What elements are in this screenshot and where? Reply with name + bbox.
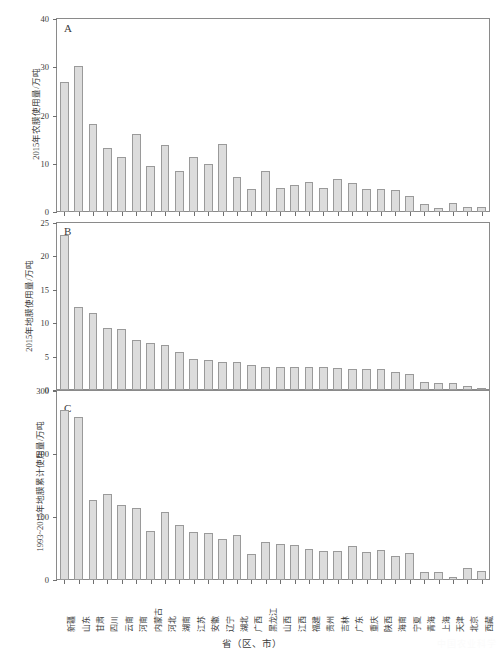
y-tick-mark xyxy=(53,116,57,117)
x-tick-label: 广西 xyxy=(255,616,263,632)
x-tick-label: 青海 xyxy=(428,616,436,632)
x-tick-label: 云南 xyxy=(126,616,134,632)
y-tick-label: 100 xyxy=(21,512,49,522)
y-tick-mark xyxy=(53,357,57,358)
y-tick-mark xyxy=(53,290,57,291)
watermark: 中国农业科学 xyxy=(437,637,497,650)
panel-b: B 2015年地膜使用量/万吨 0510152025 xyxy=(0,222,503,397)
x-tick-mark xyxy=(194,212,195,216)
y-tick-mark xyxy=(53,67,57,68)
y-tick-mark xyxy=(53,391,57,392)
y-tick-label: 0 xyxy=(21,207,49,217)
panel-a-ticks: 010203040 xyxy=(57,19,489,212)
panel-c-ticks: 0100200300 xyxy=(57,391,489,580)
x-tick-label: 湖北 xyxy=(241,616,249,632)
x-tick-label: 山西 xyxy=(284,616,292,632)
x-tick-mark xyxy=(352,212,353,216)
x-tick-mark xyxy=(251,212,252,216)
x-tick-mark xyxy=(367,212,368,216)
panel-c: C 1993~2015年地膜累计使用量/万吨 0100200300 新疆山东甘肃… xyxy=(0,390,503,654)
x-tick-mark xyxy=(280,212,281,216)
panel-b-ticks: 0510152025 xyxy=(57,223,489,390)
x-tick-label: 西藏 xyxy=(486,616,494,632)
x-tick-mark xyxy=(410,212,411,216)
x-tick-label: 四川 xyxy=(111,616,119,632)
x-tick-mark xyxy=(151,212,152,216)
x-tick-label: 河南 xyxy=(140,616,148,632)
panel-a: A 2015年农膜使用量/万吨 010203040 xyxy=(0,0,503,222)
x-tick-mark xyxy=(381,212,382,216)
x-tick-mark xyxy=(208,212,209,216)
y-tick-label: 30 xyxy=(21,62,49,72)
x-tick-label: 湖南 xyxy=(183,616,191,632)
x-tick-mark xyxy=(93,212,94,216)
y-tick-mark xyxy=(53,517,57,518)
y-tick-label: 200 xyxy=(21,449,49,459)
y-tick-mark xyxy=(53,580,57,581)
x-tick-mark xyxy=(122,212,123,216)
x-tick-label: 新疆 xyxy=(68,616,76,632)
x-tick-label: 福建 xyxy=(313,616,321,632)
y-tick-label: 10 xyxy=(21,159,49,169)
x-tick-label: 黑龙江 xyxy=(270,608,278,632)
y-tick-mark xyxy=(53,212,57,213)
y-tick-label: 20 xyxy=(21,251,49,261)
y-tick-label: 0 xyxy=(21,575,49,585)
x-tick-mark xyxy=(467,212,468,216)
y-tick-mark xyxy=(53,454,57,455)
x-tick-label: 海南 xyxy=(399,616,407,632)
x-tick-label: 江西 xyxy=(299,616,307,632)
x-tick-mark xyxy=(136,212,137,216)
x-axis-title: 省（区、市） xyxy=(0,636,503,650)
x-tick-mark xyxy=(395,212,396,216)
y-tick-label: 15 xyxy=(21,285,49,295)
y-tick-label: 300 xyxy=(21,386,49,396)
x-axis-labels: 新疆山东甘肃四川云南河南内蒙古河北湖南江苏安徽辽宁湖北广西黑龙江山西江西福建贵州… xyxy=(57,584,489,634)
y-tick-label: 25 xyxy=(21,218,49,228)
x-tick-mark xyxy=(107,212,108,216)
x-tick-mark xyxy=(309,212,310,216)
y-tick-mark xyxy=(53,19,57,20)
panel-c-yaxis-title: 1993~2015年地膜累计使用量/万吨 xyxy=(33,391,45,581)
x-tick-label: 安徽 xyxy=(212,616,220,632)
x-tick-label: 甘肃 xyxy=(97,616,105,632)
x-tick-label: 贵州 xyxy=(327,616,335,632)
x-tick-label: 辽宁 xyxy=(227,616,235,632)
x-tick-mark xyxy=(439,212,440,216)
x-tick-mark xyxy=(179,212,180,216)
y-tick-label: 10 xyxy=(21,318,49,328)
x-tick-mark xyxy=(338,212,339,216)
x-tick-mark xyxy=(237,212,238,216)
x-tick-mark xyxy=(79,212,80,216)
x-tick-label: 广东 xyxy=(356,616,364,632)
y-tick-label: 20 xyxy=(21,111,49,121)
x-tick-label: 天津 xyxy=(457,616,465,632)
x-tick-label: 重庆 xyxy=(371,616,379,632)
x-tick-mark xyxy=(266,212,267,216)
x-tick-label: 河北 xyxy=(169,616,177,632)
x-tick-label: 吉林 xyxy=(342,616,350,632)
figure-root: A 2015年农膜使用量/万吨 010203040 B 2015年地膜使用量/万… xyxy=(0,0,503,654)
x-tick-label: 山东 xyxy=(83,616,91,632)
x-tick-mark xyxy=(64,212,65,216)
x-tick-mark xyxy=(295,212,296,216)
y-tick-mark xyxy=(53,164,57,165)
panel-b-yaxis-title: 2015年地膜使用量/万吨 xyxy=(22,221,34,391)
x-tick-label: 陕西 xyxy=(385,616,393,632)
x-tick-mark xyxy=(223,212,224,216)
x-tick-mark xyxy=(482,212,483,216)
y-tick-label: 40 xyxy=(21,14,49,24)
x-tick-mark xyxy=(453,212,454,216)
x-tick-mark xyxy=(424,212,425,216)
x-tick-mark xyxy=(323,212,324,216)
y-tick-label: 5 xyxy=(21,352,49,362)
x-tick-mark xyxy=(165,212,166,216)
y-tick-mark xyxy=(53,256,57,257)
x-tick-label: 上海 xyxy=(443,616,451,632)
y-tick-mark xyxy=(53,323,57,324)
x-tick-label: 北京 xyxy=(471,616,479,632)
x-tick-label: 江苏 xyxy=(198,616,206,632)
x-tick-label: 宁夏 xyxy=(414,616,422,632)
x-tick-label: 内蒙古 xyxy=(155,608,163,632)
y-tick-mark xyxy=(53,223,57,224)
